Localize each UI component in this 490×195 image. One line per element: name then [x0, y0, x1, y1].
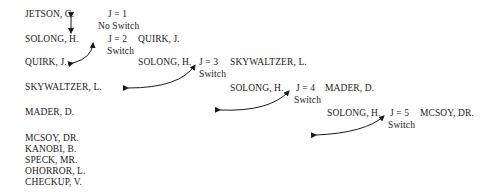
step-2-compare: QUIRK, J. [138, 35, 180, 45]
swap-arrow-3-icon [220, 91, 289, 110]
list-item-jetson: JETSON, G. [25, 10, 74, 20]
step-3-result: Switch [199, 70, 226, 80]
list-item-speck: SPECK, MR. [25, 156, 77, 166]
list-item-quirk: QUIRK, J. [25, 58, 67, 68]
swap-arrow-4-icon [316, 116, 384, 135]
step-4-key: SOLONG, H. [230, 84, 284, 94]
step-5-compare: MCSOY, DR. [420, 109, 474, 119]
step-5-result: Switch [388, 121, 415, 131]
swap-arrow-2-icon [128, 65, 195, 88]
step-5-j-label: J = 5 [390, 109, 409, 119]
list-item-solong: SOLONG, H. [25, 35, 79, 45]
step-3-j-label: J = 3 [199, 58, 218, 68]
step-2-result: Switch [107, 47, 134, 57]
step-1-result: No Switch [98, 22, 139, 32]
list-item-ohorror: OHORROR, L. [25, 167, 85, 177]
step-1-j-label: J = 1 [108, 10, 127, 20]
step-4-result: Switch [294, 96, 321, 106]
list-item-checkup: CHECKUP, V. [25, 178, 82, 188]
step-4-j-label: J = 4 [296, 84, 315, 94]
step-3-compare: SKYWALTZER, L. [230, 58, 307, 68]
list-item-mader: MADER, D. [25, 108, 74, 118]
list-item-skywaltzer: SKYWALTZER, L. [25, 83, 102, 93]
step-3-key: SOLONG, H. [138, 58, 192, 68]
step-5-key: SOLONG, H. [327, 109, 381, 119]
swap-arrow-1-icon [73, 43, 93, 63]
step-2-j-label: J = 2 [108, 35, 127, 45]
step-4-compare: MADER, D. [325, 84, 374, 94]
list-item-kanobi: KANOBI, B. [25, 145, 76, 155]
list-item-mcsoy: MCSOY, DR. [25, 134, 79, 144]
